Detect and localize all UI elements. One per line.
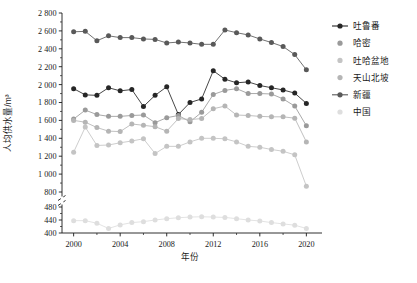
data-point — [269, 220, 274, 225]
data-point — [71, 118, 76, 123]
legend-item-2[interactable]: 哈密 — [337, 37, 371, 48]
x-axis-tick-label: 2020 — [298, 240, 314, 249]
y-axis-tick-label: 400 — [44, 229, 56, 238]
data-point — [257, 114, 262, 119]
data-point — [304, 139, 309, 144]
data-point — [129, 87, 134, 92]
data-point — [129, 113, 134, 118]
data-point — [281, 44, 286, 49]
legend-marker — [337, 41, 342, 46]
legend-item-1[interactable]: 吐鲁番 — [332, 20, 380, 31]
data-point — [83, 29, 88, 34]
data-point — [118, 35, 123, 40]
y-axis-tick-label: 2 800 — [38, 9, 56, 18]
series-3 — [71, 125, 309, 189]
legend-label: 中国 — [353, 106, 371, 117]
y-axis-tick-label: 480 — [44, 203, 56, 212]
data-point — [211, 42, 216, 47]
data-point — [281, 149, 286, 154]
legend-label: 吐哈盆地 — [353, 55, 389, 66]
legend-marker — [337, 58, 342, 63]
legend-marker — [337, 75, 342, 80]
y-axis-tick-label: 1 200 — [38, 152, 56, 161]
legend-item-3[interactable]: 吐哈盆地 — [337, 55, 389, 66]
legend-item-5[interactable]: 新疆 — [332, 89, 371, 100]
data-point — [83, 218, 88, 223]
data-point — [257, 91, 262, 96]
data-point — [106, 129, 111, 134]
data-point — [246, 32, 251, 37]
data-point — [199, 136, 204, 141]
data-point — [164, 115, 169, 120]
data-point — [304, 184, 309, 189]
legend-item-4[interactable]: 天山北坡 — [337, 72, 389, 83]
y-axis-tick-label: 1 400 — [38, 134, 56, 143]
data-point — [141, 123, 146, 128]
data-point — [234, 80, 239, 85]
data-point — [199, 116, 204, 121]
data-point — [141, 219, 146, 224]
data-point — [281, 96, 286, 101]
data-point — [281, 221, 286, 226]
data-point — [164, 144, 169, 149]
axis-label-layer: 年份人均供水量/m³ — [2, 94, 199, 262]
data-point — [118, 222, 123, 227]
axis-break-marker — [58, 196, 66, 206]
data-point — [304, 226, 309, 231]
legend-label: 天山北坡 — [353, 72, 389, 83]
x-axis-tick-label: 2008 — [159, 240, 175, 249]
y-axis-tick-label: 800 — [44, 188, 56, 197]
legend-item-6[interactable]: 中国 — [337, 106, 371, 117]
series-layer — [71, 28, 309, 231]
data-point — [83, 92, 88, 97]
data-point — [94, 221, 99, 226]
x-axis-tick-label: 2000 — [65, 240, 81, 249]
data-point — [141, 136, 146, 141]
data-point — [83, 125, 88, 130]
data-point — [106, 33, 111, 38]
x-axis-title: 年份 — [181, 251, 199, 262]
y-axis-title: 人均供水量/m³ — [2, 94, 13, 152]
data-point — [153, 218, 158, 223]
data-point — [83, 108, 88, 113]
data-point — [257, 36, 262, 41]
series-5 — [71, 28, 309, 73]
data-point — [176, 215, 181, 220]
data-point — [153, 37, 158, 42]
data-point — [164, 216, 169, 221]
data-point — [188, 139, 193, 144]
data-point — [304, 123, 309, 128]
y-axis-tick-label: 1 800 — [38, 98, 56, 107]
data-point — [234, 216, 239, 221]
data-point — [292, 152, 297, 157]
data-point — [94, 125, 99, 130]
data-point — [222, 136, 227, 141]
data-point — [141, 36, 146, 41]
data-point — [199, 214, 204, 219]
series-6 — [71, 214, 309, 231]
data-point — [118, 129, 123, 134]
y-axis-tick-label: 440 — [44, 216, 56, 225]
data-point — [176, 40, 181, 45]
data-point — [292, 116, 297, 121]
data-point — [269, 40, 274, 45]
data-point — [71, 86, 76, 91]
data-point — [176, 144, 181, 149]
data-point — [94, 143, 99, 148]
data-point — [199, 110, 204, 115]
data-point — [188, 40, 193, 45]
y-axis-tick-label: 2 000 — [38, 81, 56, 90]
data-point — [94, 38, 99, 43]
y-axis-tick-label: 2 400 — [38, 45, 56, 54]
data-point — [269, 92, 274, 97]
data-point — [211, 215, 216, 220]
legend-marker — [337, 23, 342, 28]
data-point — [304, 67, 309, 72]
data-point — [292, 52, 297, 57]
data-point — [234, 139, 239, 144]
data-point — [281, 114, 286, 119]
data-point — [211, 92, 216, 97]
chart-root: 4004404808001 0001 2001 4001 6001 8002 0… — [0, 0, 417, 283]
data-point — [164, 40, 169, 45]
y-axis-tick-label: 2 200 — [38, 63, 56, 72]
